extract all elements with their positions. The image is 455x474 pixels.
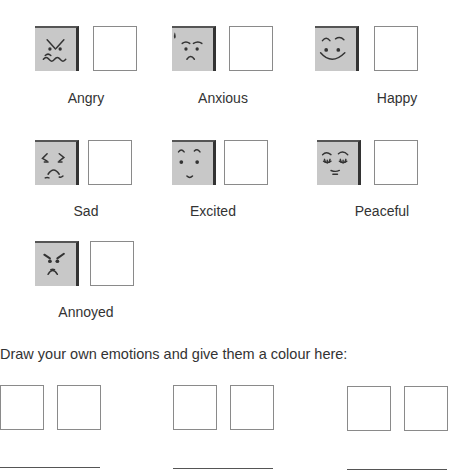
custom-face-box-3[interactable]: [347, 386, 391, 431]
excited-color-box[interactable]: [224, 140, 268, 185]
emotion-label-annoyed: Annoyed: [26, 304, 146, 320]
peaceful-color-box[interactable]: [374, 140, 418, 185]
annoyed-face-icon: [35, 241, 79, 286]
emotion-label-happy: Happy: [337, 90, 455, 106]
custom-face-box-1[interactable]: [0, 385, 44, 430]
custom-label-line-3[interactable]: [347, 469, 447, 470]
emotion-label-sad: Sad: [26, 203, 146, 219]
custom-label-line-1[interactable]: [0, 467, 100, 468]
anxious-face-icon: [172, 26, 216, 71]
anxious-color-box[interactable]: [229, 26, 273, 71]
peaceful-face-icon: [317, 140, 361, 185]
custom-label-line-2[interactable]: [173, 468, 273, 469]
emotion-label-anxious: Anxious: [163, 90, 283, 106]
angry-face-icon: [35, 26, 79, 71]
sad-face-icon: [35, 140, 79, 185]
annoyed-color-box[interactable]: [90, 241, 134, 286]
happy-face-icon: [315, 26, 359, 71]
emotion-label-angry: Angry: [26, 90, 146, 106]
custom-emotions-instruction: Draw your own emotions and give them a c…: [0, 346, 347, 362]
custom-color-box-1[interactable]: [57, 385, 101, 430]
emotion-label-peaceful: Peaceful: [322, 203, 442, 219]
emotion-label-excited: Excited: [153, 203, 273, 219]
angry-color-box[interactable]: [93, 26, 137, 71]
sad-color-box[interactable]: [88, 140, 132, 185]
custom-face-box-2[interactable]: [173, 385, 217, 430]
happy-color-box[interactable]: [374, 26, 418, 71]
custom-color-box-3[interactable]: [404, 386, 448, 431]
excited-face-icon: [172, 140, 216, 185]
custom-color-box-2[interactable]: [230, 385, 274, 430]
